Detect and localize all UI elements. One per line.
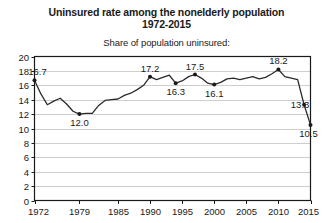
y-axis-label: 4: [24, 167, 29, 178]
x-axis-labels: 197219791985199019952000200520102015: [28, 206, 319, 217]
data-point-marker: [193, 73, 197, 77]
y-axis-label: 10: [18, 124, 29, 135]
y-axis-label: 12: [18, 109, 29, 120]
plot-background: [35, 57, 311, 201]
data-point-marker: [77, 112, 81, 116]
y-axis-label: 14: [18, 95, 29, 106]
data-value-label: 16.3: [166, 86, 185, 97]
data-point-marker: [33, 78, 37, 82]
chart-container: Uninsured rate among the nonelderly popu…: [0, 0, 333, 223]
data-value-label: 17.5: [186, 61, 205, 72]
x-axis-label: 1995: [172, 206, 193, 217]
y-axis-label: 2: [24, 181, 29, 192]
x-axis-label: 1972: [28, 206, 49, 217]
x-axis-label: 1985: [108, 206, 129, 217]
y-axis-label: 8: [24, 138, 29, 149]
x-axis-label: 2005: [236, 206, 257, 217]
data-value-label: 12.0: [70, 117, 89, 128]
data-value-label: 10.5: [299, 128, 318, 139]
data-point-marker: [174, 81, 178, 85]
data-value-label: 13.3: [291, 99, 310, 110]
x-axis-label: 1979: [69, 206, 90, 217]
data-point-marker: [276, 67, 280, 71]
data-point-marker: [309, 123, 313, 127]
data-point-marker: [212, 83, 216, 87]
y-axis-label: 16: [18, 80, 29, 91]
data-point-marker: [148, 75, 152, 79]
y-axis-label: 20: [18, 52, 29, 63]
data-value-label: 16.7: [28, 66, 47, 77]
x-axis-label: 1990: [140, 206, 161, 217]
x-axis-label: 2010: [268, 206, 289, 217]
x-axis-label: 2000: [204, 206, 225, 217]
y-axis-label: 6: [24, 152, 29, 163]
data-value-label: 17.2: [141, 63, 160, 74]
x-axis-label: 2015: [298, 206, 319, 217]
data-value-label: 16.1: [205, 88, 224, 99]
data-value-label: 18.2: [269, 55, 288, 66]
chart-plot-svg: 02468101214161820 1972197919851990199520…: [0, 0, 333, 223]
